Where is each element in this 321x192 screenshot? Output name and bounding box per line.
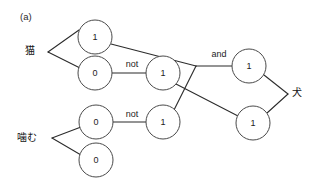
node-neko-upper[interactable]: 1 <box>78 20 112 54</box>
node-group: 1 0 1 0 0 1 1 <box>78 20 270 177</box>
edge-label-not-upper: not <box>126 59 139 69</box>
node-and-upper[interactable]: 1 <box>232 49 266 83</box>
edge-and-upper-to-inu-junction <box>264 75 288 94</box>
edge-neko-to-upper <box>48 30 79 52</box>
edge-kamu-to-lower <box>52 138 81 155</box>
edge-label-and: and <box>211 49 226 59</box>
node-and-lower[interactable]: 1 <box>236 106 270 140</box>
input-term-neko: 猫 <box>25 44 35 56</box>
figure-container: 1 0 1 0 0 1 1 <box>0 0 321 192</box>
node-value: 1 <box>160 68 165 78</box>
input-term-kamu: 噛む <box>17 131 37 143</box>
node-value: 1 <box>92 32 97 42</box>
node-value: 1 <box>160 117 165 127</box>
edge-neko-to-lower <box>48 52 80 68</box>
edge-and-lower-to-inu-junction <box>267 94 288 113</box>
node-value: 1 <box>246 61 251 71</box>
node-kamu-lower[interactable]: 0 <box>79 143 113 177</box>
output-term-inu: 犬 <box>292 86 302 98</box>
node-value: 1 <box>250 118 255 128</box>
edge-kamu-to-upper <box>52 127 81 138</box>
edge-label-not-lower: not <box>126 109 139 119</box>
node-not-lower[interactable]: 1 <box>146 105 180 139</box>
node-not-upper[interactable]: 1 <box>146 56 180 90</box>
panel-label: (a) <box>20 11 32 22</box>
node-value: 0 <box>92 68 97 78</box>
node-neko-lower[interactable]: 0 <box>78 56 112 90</box>
network-diagram: 1 0 1 0 0 1 1 <box>0 0 321 192</box>
node-kamu-upper[interactable]: 0 <box>79 105 113 139</box>
node-value: 0 <box>93 117 98 127</box>
edge-not-upper-to-and-lower <box>176 84 238 116</box>
node-value: 0 <box>93 155 98 165</box>
